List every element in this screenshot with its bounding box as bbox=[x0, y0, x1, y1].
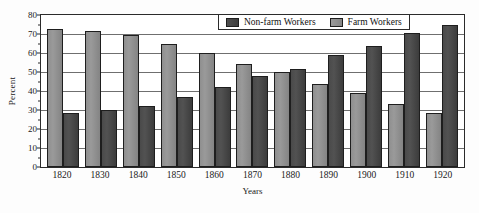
bar-group bbox=[161, 15, 193, 167]
bar-farm-1920 bbox=[426, 113, 442, 167]
x-axis-tick-labels: 1820183018401850186018701880189019001910… bbox=[40, 170, 465, 180]
bar-groups bbox=[41, 15, 464, 167]
legend-label-non-farm: Non-farm Workers bbox=[244, 17, 316, 27]
bar-farm-1820 bbox=[47, 29, 63, 167]
bar-farm-1900 bbox=[350, 93, 366, 167]
bar-group bbox=[350, 15, 382, 167]
legend-item-non-farm-workers: Non-farm Workers bbox=[226, 17, 316, 27]
x-axis-tick-label: 1870 bbox=[235, 170, 269, 180]
plot-area: 01020304050607080 bbox=[40, 14, 465, 168]
x-axis-tick-label: 1900 bbox=[350, 170, 384, 180]
bar-farm-1880 bbox=[274, 72, 290, 167]
bar-group bbox=[199, 15, 231, 167]
x-axis-tick-label: 1850 bbox=[159, 170, 193, 180]
bar-group bbox=[123, 15, 155, 167]
x-axis-tick-label: 1860 bbox=[197, 170, 231, 180]
x-axis-tick-label: 1830 bbox=[83, 170, 117, 180]
x-axis-title: Years bbox=[40, 186, 465, 196]
bar-farm-1840 bbox=[123, 35, 139, 167]
bar-group bbox=[85, 15, 117, 167]
bar-nonfarm-1880 bbox=[290, 69, 306, 167]
bar-nonfarm-1820 bbox=[63, 113, 79, 167]
bar-nonfarm-1890 bbox=[328, 55, 344, 167]
bar-group bbox=[312, 15, 344, 167]
x-axis-tick-label: 1910 bbox=[388, 170, 422, 180]
bar-nonfarm-1850 bbox=[177, 97, 193, 167]
y-axis-tick-label: 50 bbox=[28, 67, 37, 77]
legend-label-farm: Farm Workers bbox=[348, 17, 402, 27]
y-axis-tick-label: 70 bbox=[28, 29, 37, 39]
bar-farm-1890 bbox=[312, 84, 328, 167]
legend-item-farm-workers: Farm Workers bbox=[330, 17, 402, 27]
bar-group bbox=[274, 15, 306, 167]
bar-group bbox=[388, 15, 420, 167]
bar-nonfarm-1840 bbox=[139, 106, 155, 167]
bar-nonfarm-1860 bbox=[215, 87, 231, 167]
x-axis-tick-label: 1880 bbox=[274, 170, 308, 180]
bar-group bbox=[426, 15, 458, 167]
legend-swatch-farm-icon bbox=[330, 18, 343, 27]
bar-nonfarm-1830 bbox=[101, 110, 117, 167]
bar-nonfarm-1910 bbox=[404, 33, 420, 167]
x-axis-tick-label: 1920 bbox=[426, 170, 460, 180]
bar-farm-1830 bbox=[85, 31, 101, 167]
bar-nonfarm-1900 bbox=[366, 46, 382, 167]
bar-farm-1870 bbox=[236, 64, 252, 167]
x-axis-tick-label: 1840 bbox=[121, 170, 155, 180]
bar-nonfarm-1920 bbox=[442, 25, 458, 167]
y-axis-tick-label: 80 bbox=[28, 10, 37, 20]
bar-nonfarm-1870 bbox=[252, 76, 268, 167]
bar-chart: Percent 01020304050607080 18201830184018… bbox=[0, 0, 479, 213]
legend-swatch-non-farm-icon bbox=[226, 18, 239, 27]
y-axis-tick-label: 40 bbox=[28, 86, 37, 96]
x-axis-tick-label: 1820 bbox=[45, 170, 79, 180]
bar-farm-1850 bbox=[161, 44, 177, 167]
y-axis-tick-label: 30 bbox=[28, 105, 37, 115]
bar-farm-1860 bbox=[199, 53, 215, 167]
bar-group bbox=[236, 15, 268, 167]
y-axis-tick-label: 20 bbox=[28, 124, 37, 134]
x-axis-tick-label: 1890 bbox=[312, 170, 346, 180]
y-axis-tick-label: 10 bbox=[28, 143, 37, 153]
y-axis-title: Percent bbox=[7, 61, 17, 121]
bar-group bbox=[47, 15, 79, 167]
y-axis-tick-label: 60 bbox=[28, 48, 37, 58]
bar-farm-1910 bbox=[388, 104, 404, 167]
chart-legend: Non-farm Workers Farm Workers bbox=[218, 14, 410, 30]
